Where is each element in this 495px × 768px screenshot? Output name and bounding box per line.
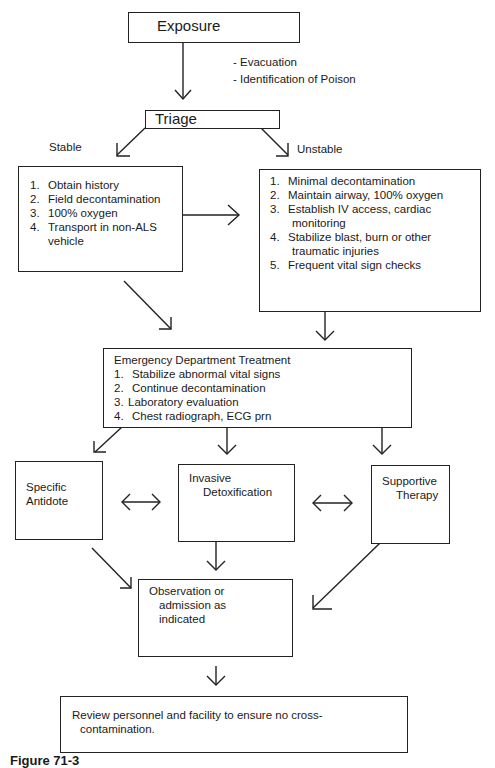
arrow-triage-to-stable: [117, 128, 145, 155]
ed-treatment-box: Emergency Department Treatment 1.Stabili…: [103, 348, 412, 428]
branch-label-unstable: Unstable: [297, 142, 342, 156]
exposure-note-identification: - Identification of Poison: [233, 72, 356, 86]
exposure-label: Exposure: [157, 19, 220, 33]
unstable-item: 2.Maintain airway, 100% oxygen: [270, 188, 443, 202]
stable-item: 4.Transport in non-ALS vehicle: [30, 220, 161, 248]
figure-caption: Figure 71-3: [10, 754, 79, 768]
exposure-box: Exposure: [128, 12, 300, 43]
unstable-item: 5.Frequent vital sign checks: [270, 258, 443, 272]
stable-item: 1.Obtain history: [30, 178, 161, 192]
review-line2: contamination.: [80, 722, 155, 736]
supportive-therapy-line1: Supportive: [382, 474, 437, 488]
ed-item: 3.Laboratory evaluation: [114, 395, 280, 409]
triage-box: Triage: [145, 110, 280, 129]
invasive-detox-box: Invasive Detoxification: [178, 464, 295, 542]
ed-treatment-title: Emergency Department Treatment: [114, 353, 290, 367]
arrow-ed-to-antidote: [95, 427, 122, 452]
arrow-stable-to-ed: [124, 281, 171, 329]
unstable-item: 4.Stabilize blast, burn or other traumat…: [270, 230, 443, 258]
observation-line2: admission as: [159, 598, 226, 612]
review-box: Review personnel and facility to ensure …: [60, 696, 408, 753]
invasive-detox-line1: Invasive: [189, 471, 231, 485]
ed-treatment-list: 1.Stabilize abnormal vital signs 2.Conti…: [114, 367, 280, 423]
ed-item: 2.Continue decontamination: [114, 381, 280, 395]
observation-line3: indicated: [159, 612, 205, 626]
stable-item: 2.Field decontamination: [30, 192, 161, 206]
unstable-item: 3.Establish IV access, cardiac monitorin…: [270, 202, 443, 230]
ed-item: 1.Stabilize abnormal vital signs: [114, 367, 280, 381]
stable-item: 3.100% oxygen: [30, 206, 161, 220]
unstable-actions-list: 1.Minimal decontamination 2.Maintain air…: [270, 174, 443, 272]
ed-item: 4.Chest radiograph, ECG prn: [114, 409, 280, 423]
review-line1: Review personnel and facility to ensure …: [72, 708, 323, 722]
stable-actions-box: 1.Obtain history 2.Field decontamination…: [18, 166, 183, 272]
unstable-item: 1.Minimal decontamination: [270, 174, 443, 188]
supportive-therapy-box: Supportive Therapy: [371, 465, 450, 544]
specific-antidote-box: Specific Antidote: [15, 461, 103, 540]
triage-label: Triage: [155, 112, 197, 126]
arrow-triage-to-unstable: [261, 128, 288, 155]
stable-actions-list: 1.Obtain history 2.Field decontamination…: [30, 178, 161, 248]
specific-antidote-line2: Antidote: [26, 494, 68, 508]
observation-box: Observation or admission as indicated: [138, 579, 293, 657]
specific-antidote-line1: Specific: [26, 480, 66, 494]
unstable-actions-box: 1.Minimal decontamination 2.Maintain air…: [259, 169, 481, 312]
branch-label-stable: Stable: [49, 140, 82, 154]
arrow-antidote-to-observation: [92, 548, 131, 588]
arrow-supportive-to-observation: [313, 543, 380, 608]
invasive-detox-line2: Detoxification: [203, 485, 272, 499]
exposure-note-evacuation: - Evacuation: [233, 55, 297, 69]
supportive-therapy-line2: Therapy: [396, 488, 438, 502]
observation-line1: Observation or: [149, 584, 224, 598]
